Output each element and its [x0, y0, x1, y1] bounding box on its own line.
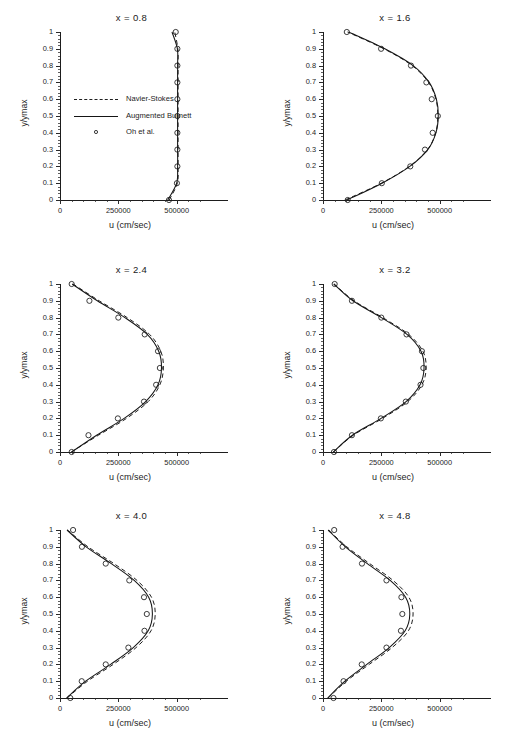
series-canvas	[60, 284, 230, 458]
y-tick-label: 0.3	[306, 643, 316, 652]
y-tick-label: 0.2	[43, 161, 53, 170]
y-tick-label: 0.6	[43, 592, 53, 601]
series-line-augmented-burnett	[328, 530, 410, 698]
y-tick-label: 0.1	[43, 676, 53, 685]
series-canvas	[323, 284, 493, 458]
data-point	[70, 527, 75, 532]
y-tick-label: 0	[312, 195, 316, 204]
legend-swatch-circle	[94, 130, 98, 134]
y-axis-label: y/ymax	[282, 345, 292, 385]
plot-area: 00.10.20.30.40.50.60.70.80.9102500005000…	[323, 32, 463, 200]
y-tick-label: 0.3	[43, 145, 53, 154]
y-axis-label: y/ymax	[282, 93, 292, 133]
data-point	[87, 298, 92, 303]
y-tick-label: 0.6	[43, 346, 53, 355]
plot-area: 00.10.20.30.40.50.60.70.80.9102500005000…	[323, 284, 463, 452]
y-tick-label: 0.7	[43, 575, 53, 584]
x-tick-label: 0	[321, 458, 325, 467]
data-point	[430, 130, 435, 135]
legend: Navier-StokesAugmented BurnettOh et al.	[60, 32, 200, 200]
y-tick-label: 0.9	[43, 44, 53, 53]
y-tick-label: 0.4	[43, 626, 53, 635]
y-tick-label: 0.6	[306, 592, 316, 601]
series-line-navier-stokes	[328, 530, 413, 698]
chart-panel-3: x = 2.400.10.20.30.40.50.60.70.80.910250…	[0, 252, 263, 498]
data-points-oh-et-al-	[331, 527, 405, 700]
series-line-navier-stokes	[67, 530, 155, 698]
y-tick-label: 0.9	[306, 542, 316, 551]
y-tick-label: 0.4	[43, 128, 53, 137]
data-points-oh-et-al-	[331, 281, 426, 454]
y-tick-label: 0.5	[43, 609, 53, 618]
panel-title: x = 0.8	[0, 12, 263, 23]
y-tick-label: 0.7	[306, 77, 316, 86]
y-tick-label: 0.8	[43, 61, 53, 70]
x-axis-label: u (cm/sec)	[60, 220, 200, 230]
legend-swatch-solid	[74, 116, 118, 117]
y-tick-label: 0.5	[306, 363, 316, 372]
data-point	[429, 97, 434, 102]
y-tick-label: 0.4	[306, 380, 316, 389]
chart-panel-1: x = 0.800.10.20.30.40.50.60.70.80.910250…	[0, 0, 263, 252]
y-tick-label: 0.1	[43, 178, 53, 187]
y-tick-label: 1	[49, 27, 53, 36]
y-tick-label: 0	[49, 195, 53, 204]
data-point	[116, 315, 121, 320]
x-tick-label: 500000	[164, 458, 189, 467]
y-tick-label: 0.4	[306, 626, 316, 635]
data-point	[86, 433, 91, 438]
x-axis-label: u (cm/sec)	[60, 718, 200, 728]
data-point	[144, 611, 149, 616]
series-line-navier-stokes	[345, 32, 438, 200]
x-tick-label: 500000	[427, 458, 452, 467]
series-canvas	[60, 530, 230, 704]
y-tick-label: 0	[312, 693, 316, 702]
y-tick-label: 0.3	[43, 643, 53, 652]
x-axis-label: u (cm/sec)	[323, 718, 463, 728]
y-tick-label: 0.3	[43, 397, 53, 406]
series-line-augmented-burnett	[333, 284, 424, 452]
figure-panel-grid: x = 0.800.10.20.30.40.50.60.70.80.910250…	[0, 0, 527, 752]
panel-title: x = 3.2	[263, 264, 527, 275]
y-tick-label: 0.6	[306, 346, 316, 355]
y-tick-label: 0	[312, 447, 316, 456]
data-points-oh-et-al-	[69, 281, 162, 454]
y-axis-label: y/ymax	[19, 591, 29, 631]
y-tick-label: 0.5	[43, 363, 53, 372]
y-tick-label: 0.3	[306, 397, 316, 406]
x-tick-label: 250000	[106, 206, 131, 215]
data-point	[331, 695, 336, 700]
y-tick-label: 0.5	[43, 111, 53, 120]
x-tick-label: 250000	[369, 458, 394, 467]
y-tick-label: 0.9	[43, 296, 53, 305]
y-tick-label: 0	[49, 693, 53, 702]
y-tick-label: 0.4	[43, 380, 53, 389]
y-axis-label: y/ymax	[282, 591, 292, 631]
y-tick-label: 0.9	[43, 542, 53, 551]
y-tick-label: 0.8	[306, 61, 316, 70]
y-tick-label: 0.2	[43, 659, 53, 668]
panel-title: x = 1.6	[263, 12, 527, 23]
chart-panel-6: x = 4.800.10.20.30.40.50.60.70.80.910250…	[263, 498, 527, 738]
series-canvas	[323, 530, 493, 704]
y-tick-label: 0.8	[43, 559, 53, 568]
plot-area: 00.10.20.30.40.50.60.70.80.9102500005000…	[60, 530, 200, 698]
data-point	[399, 595, 404, 600]
y-tick-label: 1	[49, 279, 53, 288]
y-tick-label: 1	[312, 279, 316, 288]
data-point	[68, 695, 73, 700]
y-tick-label: 0	[49, 447, 53, 456]
y-tick-label: 0.8	[306, 313, 316, 322]
data-points-oh-et-al-	[68, 527, 150, 700]
y-tick-label: 0.1	[306, 676, 316, 685]
y-tick-label: 0.8	[306, 559, 316, 568]
y-tick-label: 0.2	[43, 413, 53, 422]
y-tick-label: 0.9	[306, 44, 316, 53]
data-points-oh-et-al-	[344, 29, 440, 202]
data-point	[79, 544, 84, 549]
y-tick-label: 0.6	[43, 94, 53, 103]
legend-label: Oh et al.	[126, 127, 155, 136]
footer-partial-caption	[0, 738, 527, 750]
plot-area: 00.10.20.30.40.50.60.70.80.9102500005000…	[60, 32, 200, 200]
series-line-augmented-burnett	[72, 284, 162, 452]
